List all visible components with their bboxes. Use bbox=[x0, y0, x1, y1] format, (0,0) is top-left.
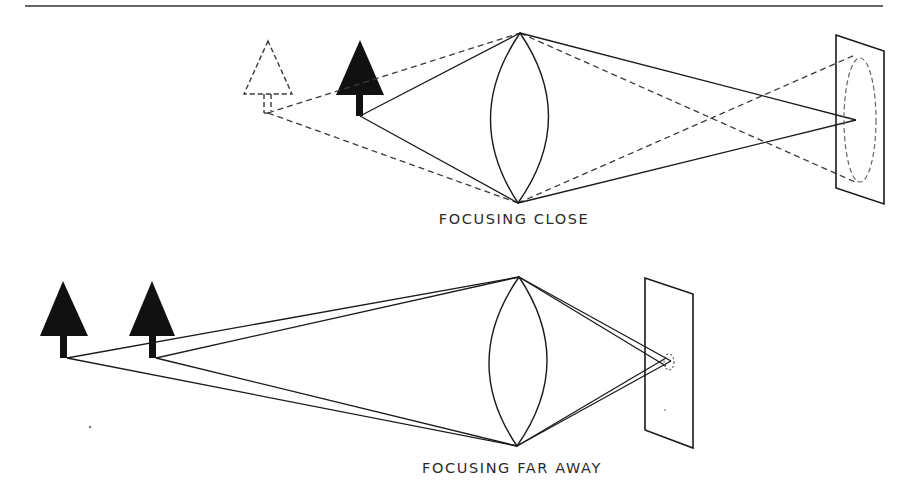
convex-lens-close bbox=[490, 33, 548, 203]
caption-focusing-far: FOCUSING FAR AWAY bbox=[422, 460, 602, 476]
image-screen-far bbox=[645, 278, 693, 448]
virtual-tree-icon bbox=[244, 41, 292, 113]
print-speck bbox=[89, 426, 91, 428]
diagram-canvas bbox=[0, 0, 919, 496]
far-tree-2-icon bbox=[129, 281, 175, 358]
convex-lens-far bbox=[489, 277, 547, 446]
far-tree-1-icon bbox=[40, 281, 88, 358]
solid-rays-close bbox=[360, 33, 856, 203]
focusing-diagram: FOCUSING CLOSE FOCUSING FAR AWAY bbox=[0, 0, 919, 496]
rays-tree-2 bbox=[156, 277, 671, 446]
caption-focusing-close: FOCUSING CLOSE bbox=[439, 211, 590, 227]
blur-circle-large bbox=[844, 58, 876, 182]
panel-focusing-far bbox=[40, 277, 693, 448]
print-speck bbox=[664, 409, 666, 411]
panel-focusing-close bbox=[244, 33, 884, 204]
